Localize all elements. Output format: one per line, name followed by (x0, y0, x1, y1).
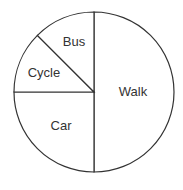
pie-chart: Walk Car Cycle Bus (0, 0, 183, 190)
label-bus: Bus (63, 34, 86, 49)
label-walk: Walk (119, 84, 148, 99)
label-cycle: Cycle (28, 65, 61, 80)
label-car: Car (51, 118, 73, 133)
pie-slices (14, 12, 174, 172)
